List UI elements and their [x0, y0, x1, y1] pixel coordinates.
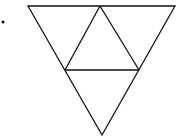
bullet-dot: [2, 21, 5, 24]
inner-line-right: [100, 6, 139, 70]
triangle-diagram: [0, 0, 181, 137]
inner-line-left: [65, 6, 100, 70]
